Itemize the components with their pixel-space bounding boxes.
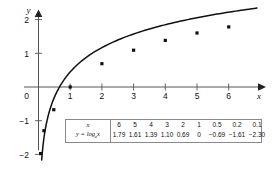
table-row-header-x-label: x (87, 121, 90, 128)
table-row-header-y: y = logex (66, 130, 111, 142)
x-tick-label-2: 2 (100, 91, 105, 101)
table-cell-x: 0.5 (207, 120, 227, 130)
data-point-marker (195, 31, 198, 34)
x-tick-label-6: 6 (226, 91, 231, 101)
table-cell-y: 0.69 (175, 130, 191, 142)
table-cell-x: 3 (159, 120, 175, 130)
table-cell-y: 1.79 (111, 130, 128, 142)
y-tick-label-2: 2 (24, 15, 29, 25)
table-cell-x: 5 (127, 120, 143, 130)
value-table: x 6 5 4 3 2 1 0.5 0.2 0.1 y = logex 1.79… (65, 119, 262, 143)
table-row-header-y-prefix: y = log (76, 130, 95, 137)
y-tick-label-0: 0 (24, 91, 29, 101)
table-cell-x: 0.2 (227, 120, 247, 130)
table-cell-y: −0.69 (207, 130, 227, 142)
table-cell-y: 0 (191, 130, 207, 142)
table-row-x: x 6 5 4 3 2 1 0.5 0.2 0.1 (66, 120, 267, 130)
table-cell-x: 1 (191, 120, 207, 130)
value-table-grid: x 6 5 4 3 2 1 0.5 0.2 0.1 y = logex 1.79… (66, 120, 267, 142)
x-axis-arrowhead (258, 83, 266, 91)
data-point-marker (132, 49, 135, 52)
y-tick-label-minus-2: −2 (19, 150, 29, 160)
data-point-marker (227, 25, 230, 28)
data-point-marker (164, 39, 167, 42)
x-axis-title: x (256, 91, 261, 101)
y-axis-title: y (26, 5, 31, 15)
x-tick-label-5: 5 (195, 91, 200, 101)
log-curve-plot: y x 2 1 0 −1 −2 1 2 3 4 5 6 (0, 0, 278, 169)
x-tick-label-1: 1 (68, 91, 73, 101)
table-cell-y: 1.10 (159, 130, 175, 142)
y-axis-arrowhead (35, 10, 43, 18)
table-cell-y: −1.61 (227, 130, 247, 142)
data-point-marker (52, 108, 55, 111)
table-cell-x: 2 (175, 120, 191, 130)
data-point-marker (69, 85, 72, 88)
table-cell-y: 1.61 (127, 130, 143, 142)
y-tick-label-minus-1: −1 (19, 116, 29, 126)
logarithm-function-figure: y x 2 1 0 −1 −2 1 2 3 4 5 6 x 6 5 4 3 2 … (0, 0, 278, 169)
x-tick-label-4: 4 (163, 91, 168, 101)
x-tick-label-3: 3 (131, 91, 136, 101)
y-tick-label-1: 1 (24, 49, 29, 59)
table-cell-x: 0.1 (247, 120, 267, 130)
table-row-header-y-suffix: x (97, 130, 100, 137)
table-cell-y: 1.39 (143, 130, 159, 142)
table-row-y: y = logex 1.79 1.61 1.39 1.10 0.69 0 −0.… (66, 130, 267, 142)
table-cell-x: 6 (111, 120, 128, 130)
data-point-marker (100, 62, 103, 65)
data-point-marker (42, 129, 45, 132)
table-row-header-x: x (66, 120, 111, 130)
data-point-marker (39, 152, 42, 155)
table-cell-y: −2.30 (247, 130, 267, 142)
table-cell-x: 4 (143, 120, 159, 130)
